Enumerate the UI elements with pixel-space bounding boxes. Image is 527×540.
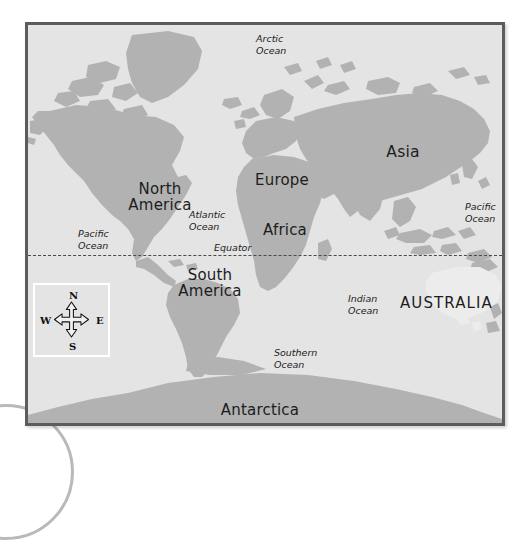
compass-south-label: S: [69, 341, 76, 352]
map-canvas: [28, 25, 502, 423]
world-map: Equator North America South America Euro…: [25, 22, 505, 426]
compass-west-label: W: [40, 315, 51, 326]
compass-east-label: E: [96, 315, 104, 326]
compass-north-label: N: [69, 290, 78, 301]
compass-rose: N S E W: [33, 283, 110, 357]
equator-line: [28, 255, 502, 256]
